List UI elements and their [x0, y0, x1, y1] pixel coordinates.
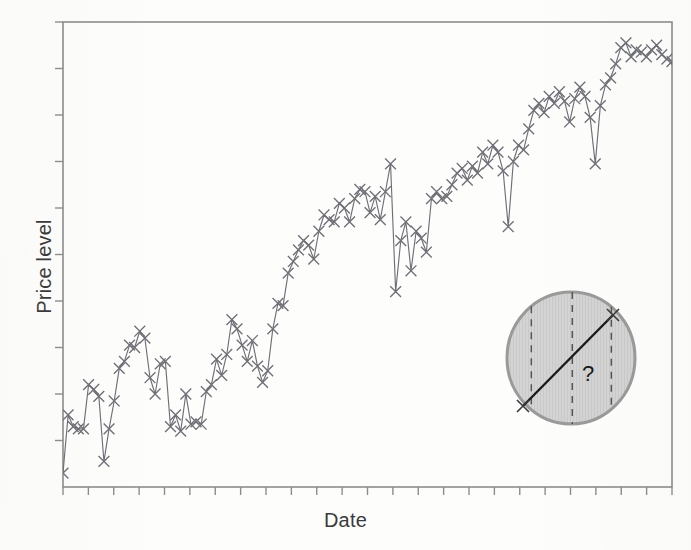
circle-annotation: ?	[507, 292, 635, 424]
y-axis-ticks	[55, 22, 63, 441]
y-axis-label: Price level	[33, 187, 56, 347]
chart-figure: ? Price level Date	[0, 0, 691, 550]
question-mark-label: ?	[582, 361, 594, 386]
price-level-chart: ?	[0, 0, 691, 550]
x-axis-ticks	[63, 487, 672, 495]
x-axis-label: Date	[0, 509, 691, 532]
